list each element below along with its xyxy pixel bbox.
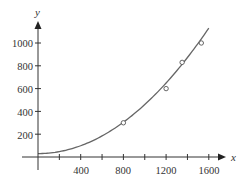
x-tick-label: 400 <box>73 165 89 176</box>
data-point-marker <box>121 121 125 125</box>
fitted-curve <box>38 28 209 153</box>
x-tick-label: 1200 <box>156 165 177 176</box>
data-point-marker <box>164 86 168 90</box>
y-tick-label: 600 <box>17 84 33 95</box>
x-tick-label: 1600 <box>199 165 220 176</box>
x-tick-label: 800 <box>115 165 131 176</box>
data-point-marker <box>199 41 203 45</box>
data-point-marker <box>180 60 184 64</box>
y-axis-label: y <box>34 6 40 18</box>
x-axis-label: x <box>230 151 236 163</box>
y-tick-label: 800 <box>17 61 33 72</box>
y-axis-arrow-icon <box>35 21 42 29</box>
x-tick-labels: 400 800 1200 1600 <box>73 165 219 176</box>
y-tick-labels: 200 400 600 800 1000 <box>12 38 33 141</box>
y-tick-label: 200 <box>17 130 33 141</box>
x-axis-arrow-icon <box>218 154 226 161</box>
axes: x y 400 800 1200 1600 200 400 600 800 10… <box>12 6 236 176</box>
y-tick-label: 1000 <box>12 38 33 49</box>
chart: x y 400 800 1200 1600 200 400 600 800 10… <box>0 0 249 183</box>
y-tick-label: 400 <box>17 107 33 118</box>
curve-line <box>38 28 209 153</box>
